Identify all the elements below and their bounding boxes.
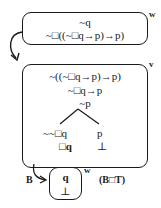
world-v-box: ~((~□q→p)→p) ~□q→p ~p xyxy=(22,64,148,168)
formula-line: ~□q→p xyxy=(23,85,147,96)
arrow-label-b: B xyxy=(26,175,33,184)
formula-line: ⊥ xyxy=(50,186,81,197)
formula-line: ~((~□q→p)→p) xyxy=(23,71,147,82)
world-label-w: w xyxy=(149,10,156,19)
branch-left-formula: □q xyxy=(59,141,72,152)
branch-left-formula: ~~□q xyxy=(43,128,67,139)
world-label-w2: w xyxy=(84,166,91,175)
formula-line: ~q xyxy=(23,17,147,28)
world-w2-box: q ⊥ xyxy=(49,167,82,200)
branch-right-formula: p xyxy=(97,128,103,139)
rule-label: (B□T) xyxy=(99,175,125,184)
world-label-v: v xyxy=(149,60,154,69)
formula-line: ~□((~□q→p)→p) xyxy=(23,30,147,41)
accessibility-arrow-w-v xyxy=(11,32,22,58)
formula-line: ~p xyxy=(23,98,147,109)
world-w-box: ~q ~□((~□q→p)→p) xyxy=(22,12,148,45)
branch-right-formula: ⊥ xyxy=(97,141,107,152)
formula-line: q xyxy=(50,172,81,183)
